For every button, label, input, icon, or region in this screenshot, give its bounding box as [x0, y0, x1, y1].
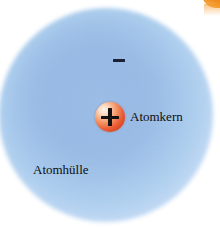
electron-minus-icon [113, 59, 125, 62]
corner-scan-artifact-fade [204, 4, 220, 16]
atom-nucleus-sphere [95, 102, 125, 132]
atom-model-figure: Atomkern Atomhülle [0, 0, 220, 229]
nucleus-plus-icon [95, 102, 125, 132]
atom-shell-label: Atomhülle [33, 163, 89, 176]
atom-nucleus-label: Atomkern [130, 110, 183, 123]
